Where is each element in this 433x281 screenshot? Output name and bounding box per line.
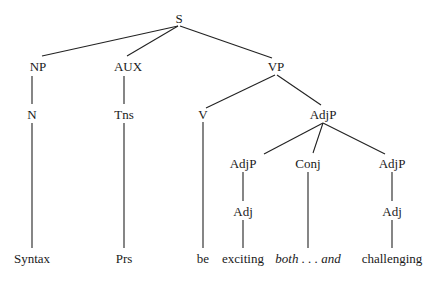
edge-s-to-aux: [127, 26, 178, 56]
node-adjp-right: AdjP: [379, 157, 406, 170]
node-adjp: AdjP: [310, 108, 337, 121]
node-challenging: challenging: [362, 252, 423, 265]
edge-s-to-np: [42, 26, 178, 56]
node-prs: Prs: [116, 252, 133, 265]
node-adj-left: Adj: [233, 205, 253, 218]
node-be: be: [197, 252, 209, 265]
edge-vp-to-v: [206, 75, 275, 108]
node-aux: AUX: [114, 60, 142, 73]
node-conj: Conj: [295, 157, 320, 170]
edge-adjp-to-adjp-right: [323, 123, 385, 154]
node-np: NP: [30, 60, 47, 73]
tree-edges: [0, 0, 433, 281]
node-v: V: [198, 108, 207, 121]
node-vp: VP: [268, 60, 285, 73]
node-s: S: [175, 12, 182, 25]
syntax-tree-diagram: SNPAUXVPNTnsVAdjPAdjPConjAdjPAdjAdjSynta…: [0, 0, 433, 281]
node-n: N: [27, 108, 36, 121]
node-tns: Tns: [114, 108, 134, 121]
node-exciting: exciting: [222, 252, 264, 265]
node-adjp-left: AdjP: [230, 157, 257, 170]
node-both-and: both . . . and: [275, 252, 340, 265]
node-syntax: Syntax: [14, 252, 50, 265]
edge-s-to-vp: [180, 26, 272, 58]
edge-vp-to-adjp: [277, 75, 321, 105]
node-adj-right: Adj: [382, 205, 402, 218]
